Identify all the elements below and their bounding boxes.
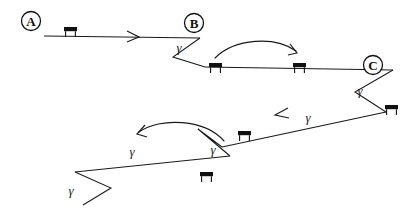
turn-group [75,38,393,205]
bench-icon [238,131,251,141]
angle-label-gamma-m2: γ [210,142,216,157]
transition-lower-arc [139,122,224,141]
angle-label-gamma-c: γ [357,83,363,98]
transition-upper-arrowhead-icon [288,44,297,55]
arrow-right-icon [127,31,139,42]
waypoint-label-c: C [368,58,377,73]
angle-label-gamma-m3: γ [129,144,135,159]
waypoint-label-b: B [190,16,199,31]
bench-icon [385,105,398,115]
lane-arrowhead-group [127,31,289,118]
turn-lower-left-vertex [75,172,111,205]
lane-4-line [75,156,230,172]
diagram-canvas: γ γ γ γ γ γ A B C [0,0,417,214]
bench-marker-group [64,27,398,182]
angle-label-gamma-d: γ [68,183,74,198]
transition-upper-arc [215,41,296,58]
angle-label-gamma-m1: γ [305,110,311,125]
lane-3-line [222,112,386,147]
lane-group [44,36,393,172]
waypoint-group: A B C [22,12,383,75]
angle-label-gamma-b: γ [176,40,182,55]
waypoint-node-c: C [364,56,383,75]
transition-arrow-group [137,41,297,141]
transition-lower-arrowhead-icon [137,125,147,137]
arrow-left-icon [275,108,289,118]
lane-1-line [44,36,200,38]
path-diagram-figure: γ γ γ γ γ γ A B C [0,0,417,214]
waypoint-label-a: A [26,14,36,29]
bench-icon [200,172,213,182]
waypoint-node-b: B [185,14,204,33]
bench-icon [64,27,77,37]
waypoint-node-a: A [22,12,41,31]
bench-icon [209,63,222,73]
